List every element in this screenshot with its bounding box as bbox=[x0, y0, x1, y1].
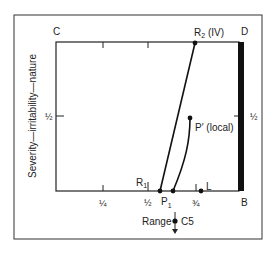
corner-c-label: C bbox=[53, 26, 60, 37]
corner-d-label: D bbox=[241, 26, 248, 37]
r2-label: R2 (IV) bbox=[194, 27, 224, 39]
x-tick-half-label: ½ bbox=[144, 198, 152, 208]
c5-point bbox=[172, 218, 177, 223]
r1-label: R1 bbox=[136, 177, 147, 189]
movement-diagram: C D B R2 (IV) R1 P1 P′ (local) L ¼ ½ ¾ ½… bbox=[0, 0, 276, 253]
y-tick-half-right-label: ½ bbox=[250, 112, 258, 122]
point-p-prime bbox=[188, 116, 193, 121]
x-tick-quarter-label: ¼ bbox=[99, 198, 107, 208]
limit-bar bbox=[238, 42, 244, 191]
x-tick-three-quarter-label: ¾ bbox=[192, 198, 200, 208]
point-p1 bbox=[171, 189, 176, 194]
y-tick-half-left-label: ½ bbox=[45, 112, 53, 122]
plot-box bbox=[56, 42, 239, 191]
down-arrow-icon bbox=[172, 229, 178, 234]
point-r1-base bbox=[158, 189, 163, 194]
p-prime-label: P′ (local) bbox=[195, 122, 234, 133]
range-label: Range bbox=[142, 216, 172, 227]
l-label: L bbox=[206, 181, 212, 192]
y-axis-label: Severity—irritability—nature bbox=[27, 54, 38, 178]
point-l bbox=[199, 189, 204, 194]
corner-b-label: B bbox=[241, 197, 248, 208]
p1-label: P1 bbox=[161, 196, 172, 209]
movement-label: C5 bbox=[181, 216, 194, 227]
point-r2 bbox=[193, 41, 198, 46]
pain-curve-p1-pprime bbox=[173, 118, 190, 191]
